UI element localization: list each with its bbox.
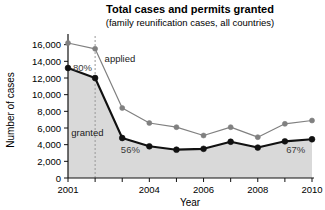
granted-fill-path — [68, 68, 312, 178]
granted-point — [146, 143, 152, 149]
granted-point — [119, 135, 125, 141]
applied-point — [93, 46, 98, 51]
chart-title: Total cases and permits granted — [106, 3, 274, 15]
y-tick-label: 6,000 — [37, 123, 61, 134]
series-label-granted: granted — [71, 127, 103, 138]
x-tick-label: 2004 — [139, 184, 160, 195]
x-tick-label: 2006 — [193, 184, 214, 195]
series-label-applied: applied — [105, 53, 136, 64]
line-chart: Total cases and permits granted (family … — [0, 0, 325, 210]
y-tick-label: 16,000 — [32, 39, 61, 50]
y-axis-ticks: 02,0004,0006,0008,00010,00012,00014,0001… — [32, 39, 68, 183]
y-tick-label: 2,000 — [37, 156, 61, 167]
granted-point — [255, 145, 261, 151]
x-tick-label: 2008 — [247, 184, 268, 195]
granted-point — [201, 146, 207, 152]
x-axis-title: Year — [180, 197, 201, 208]
y-tick-label: 12,000 — [32, 73, 61, 84]
ratio-2010: 67% — [286, 144, 306, 155]
granted-point — [309, 136, 315, 142]
y-tick-label: 4,000 — [37, 139, 61, 150]
y-tick-label: 0 — [56, 173, 61, 184]
granted-point — [228, 139, 234, 145]
applied-point — [174, 125, 179, 130]
applied-point — [66, 41, 71, 46]
granted-point — [65, 65, 71, 71]
chart-subtitle: (family reunification cases, all countri… — [106, 17, 274, 28]
chart-container: Total cases and permits granted (family … — [0, 0, 325, 210]
applied-point — [228, 125, 233, 130]
applied-point — [310, 118, 315, 123]
granted-area-fill — [68, 68, 312, 178]
y-axis-title: Number of cases — [5, 72, 16, 148]
applied-point — [201, 133, 206, 138]
applied-point — [282, 121, 287, 126]
x-tick-label: 2010 — [301, 184, 322, 195]
applied-point — [147, 121, 152, 126]
applied-point — [255, 135, 260, 140]
y-tick-label: 8,000 — [37, 106, 61, 117]
x-tick-label: 2001 — [57, 184, 78, 195]
granted-point — [174, 147, 180, 153]
y-tick-label: 14,000 — [32, 56, 61, 67]
ratio-2001: 80% — [73, 62, 93, 73]
x-axis-ticks: 20012004200620082010 — [57, 178, 322, 195]
applied-point — [120, 106, 125, 111]
y-tick-label: 10,000 — [32, 89, 61, 100]
ratio-2003: 56% — [121, 144, 141, 155]
granted-point — [92, 75, 98, 81]
granted-point — [282, 138, 288, 144]
